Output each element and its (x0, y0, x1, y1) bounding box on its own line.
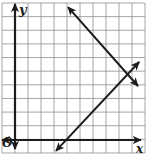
positive-slope-line (56, 62, 139, 151)
y-axis-label: y (18, 2, 28, 17)
negative-slope-line (68, 7, 138, 86)
x-axis-label: x (135, 142, 144, 156)
coordinate-graph-figure: y x O (0, 0, 151, 162)
origin-label: O (2, 136, 13, 150)
graph-svg: y x O (0, 0, 151, 162)
plotted-lines (56, 7, 139, 151)
